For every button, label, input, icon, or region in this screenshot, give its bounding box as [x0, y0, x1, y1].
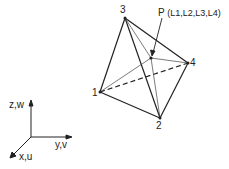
leader-line [153, 18, 162, 53]
edge-3-1 [100, 18, 125, 92]
vertex-label-3: 3 [120, 5, 126, 15]
point-name: P [158, 7, 165, 18]
connector-p-2 [151, 58, 160, 118]
vertex-dot-3 [124, 17, 127, 20]
point-coords: (L1,L2,L3,L4) [167, 8, 221, 18]
point-label: P (L1,L2,L3,L4) [158, 8, 221, 18]
axis-label-zw: z,w [9, 100, 24, 110]
connector-p-1 [100, 58, 151, 92]
edge-1-2 [100, 92, 160, 118]
edge-3-2 [125, 18, 160, 118]
tetrahedron-diagram [0, 0, 229, 169]
axis-label-yv: y,v [55, 140, 67, 150]
leader-arrowhead-icon [151, 50, 156, 56]
vertex-label-1: 1 [92, 88, 98, 98]
connector-p-3 [125, 18, 151, 58]
tetrahedron-edges [100, 18, 188, 118]
point-connectors [100, 18, 188, 118]
axis-label-xu: x,u [19, 152, 32, 162]
vertex-label-4: 4 [190, 58, 196, 68]
z-arrow-icon [29, 100, 33, 106]
point-p-dot [149, 56, 152, 59]
vertex-dot-1 [99, 91, 102, 94]
vertex-label-2: 2 [156, 121, 162, 131]
